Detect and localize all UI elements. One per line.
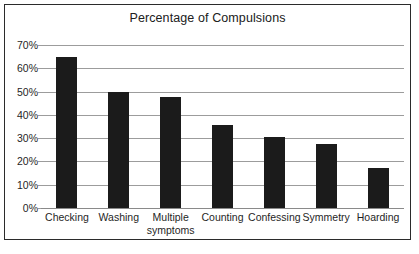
chart-title: Percentage of Compulsions [5, 11, 410, 25]
gridline [41, 115, 404, 116]
bar [212, 125, 233, 208]
x-axis-tick-label-line: Hoarding [347, 211, 409, 224]
bar [368, 168, 389, 208]
gridline [41, 92, 404, 93]
x-axis-tick-labels: CheckingWashingMultiplesymptomsCountingC… [41, 211, 404, 245]
x-axis-tick-label: Hoarding [347, 211, 409, 224]
bar [316, 144, 337, 208]
bar [160, 97, 181, 208]
bar [264, 137, 285, 208]
gridline [41, 208, 404, 209]
bar [108, 92, 129, 208]
gridline [41, 68, 404, 69]
x-axis-tick-label-line: symptoms [140, 224, 202, 237]
chart-frame: Percentage of Compulsions 70%60%50%40%30… [4, 4, 411, 240]
y-axis-tick-marks [5, 45, 45, 208]
bar [56, 57, 77, 208]
gridline [41, 45, 404, 46]
plot-area [41, 45, 404, 208]
